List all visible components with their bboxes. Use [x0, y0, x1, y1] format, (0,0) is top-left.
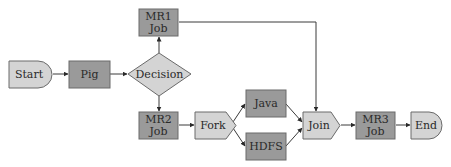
edge-java-join [286, 104, 302, 122]
hdfs-label: HDFS [249, 140, 283, 153]
mr1-label-line2: Job [148, 22, 167, 35]
node-fork: Fork [195, 112, 236, 139]
pig-label: Pig [81, 68, 99, 81]
node-start: Start [9, 61, 52, 88]
node-pig: Pig [69, 61, 110, 88]
java-label: Java [253, 97, 278, 110]
node-decision: Decision [128, 53, 191, 96]
node-mr3-job: MR3 Job [356, 112, 395, 139]
node-mr1-job: MR1 Job [139, 9, 178, 36]
node-mr2-job: MR2 Job [139, 112, 178, 139]
workflow-diagram: Start Pig Decision MR1 Job MR2 Job Fork … [0, 0, 451, 167]
mr2-label-line2: Job [148, 125, 167, 138]
join-label: Join [307, 119, 330, 132]
node-hdfs: HDFS [246, 133, 286, 160]
node-join: Join [303, 112, 340, 139]
node-java: Java [246, 90, 286, 117]
end-label: End [415, 119, 437, 132]
edge-hdfs-join [286, 128, 302, 146]
mr3-label-line2: Job [365, 125, 384, 138]
node-end: End [411, 112, 442, 139]
fork-label: Fork [200, 119, 226, 132]
start-label: Start [15, 68, 44, 81]
decision-label: Decision [136, 68, 184, 81]
